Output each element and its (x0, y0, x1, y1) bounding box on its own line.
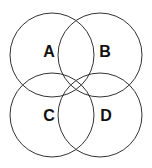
venn-diagram: A B C D (0, 0, 152, 168)
label-c: C (43, 107, 55, 124)
label-d: D (100, 107, 112, 124)
label-a: A (43, 43, 55, 60)
label-b: B (99, 43, 111, 60)
